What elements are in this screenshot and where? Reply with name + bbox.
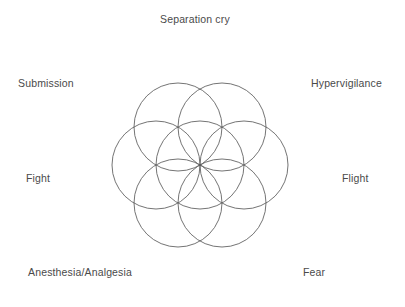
circle-group [112, 83, 288, 247]
label-anesthesia-analgesia: Anesthesia/Analgesia [28, 266, 132, 279]
label-submission: Submission [18, 77, 74, 90]
label-fight: Fight [26, 172, 50, 185]
overlapping-circles-diagram [0, 0, 405, 307]
diagram-figure: Separation cry Submission Hypervigilance… [0, 0, 405, 307]
label-flight: Flight [342, 172, 369, 185]
label-hypervigilance: Hypervigilance [311, 77, 382, 90]
label-fear: Fear [303, 266, 325, 279]
label-separation-cry: Separation cry [160, 13, 230, 26]
